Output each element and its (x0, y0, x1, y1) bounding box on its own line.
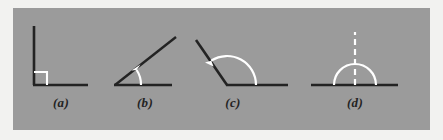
diagram-c-obtuse-angle (196, 40, 288, 85)
diagram-b-acute-angle (114, 37, 176, 85)
diagram-b-slanted-ray (115, 37, 176, 85)
figure-label-b: (b) (115, 95, 175, 111)
angle-diagrams-svg (0, 0, 443, 140)
angle-figure-root: (a) (b) (c) (d) (0, 0, 443, 140)
diagram-d-straight-angle (311, 32, 398, 85)
figure-label-a: (a) (31, 95, 91, 111)
figure-label-d: (d) (325, 95, 385, 111)
diagram-a-right-angle (33, 26, 88, 85)
diagram-b-angle-arc (137, 70, 141, 85)
diagram-a-right-angle-square-marker (34, 72, 47, 85)
figure-label-c: (c) (203, 95, 263, 111)
